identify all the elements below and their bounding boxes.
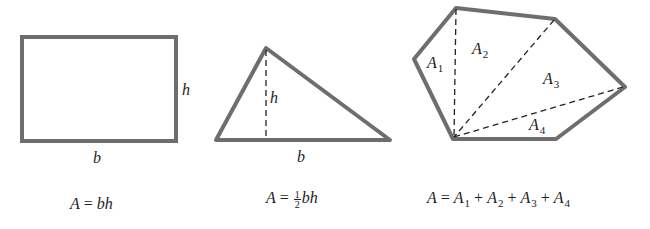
region-label-a4: A4 bbox=[529, 117, 545, 136]
plus-sign: + bbox=[474, 189, 483, 206]
formula-equals: = bbox=[280, 189, 289, 206]
polygon-shape bbox=[414, 8, 625, 139]
one-half-fraction: 1 2 bbox=[294, 190, 301, 209]
rectangle-shape bbox=[22, 37, 176, 141]
triangle-area-formula: A = 1 2 bh bbox=[266, 190, 318, 209]
formula-lhs: A bbox=[70, 195, 80, 212]
region-label-a3: A3 bbox=[543, 71, 559, 90]
rectangle-height-label: h bbox=[182, 82, 190, 98]
region-label-a1: A1 bbox=[427, 55, 443, 74]
rectangle-base-label: b bbox=[93, 150, 101, 166]
formula-lhs: A bbox=[266, 189, 276, 206]
triangle-height-label: h bbox=[270, 90, 278, 106]
triangle-base-label: b bbox=[297, 149, 305, 165]
formula-equals: = bbox=[84, 195, 93, 212]
polygon-area-formula: A = A1 + A2 + A3 + A4 bbox=[427, 190, 570, 209]
formula-rhs: bh bbox=[302, 189, 318, 206]
formula-equals: = bbox=[441, 189, 450, 206]
formula-rhs: bh bbox=[97, 195, 113, 212]
region-label-a2: A2 bbox=[472, 41, 488, 60]
triangle-shape bbox=[216, 48, 390, 140]
formula-lhs: A bbox=[427, 189, 437, 206]
rectangle-area-formula: A = bh bbox=[70, 196, 113, 212]
plus-sign: + bbox=[507, 189, 516, 206]
plus-sign: + bbox=[541, 189, 550, 206]
polygon-diagonal-1 bbox=[454, 9, 456, 137]
